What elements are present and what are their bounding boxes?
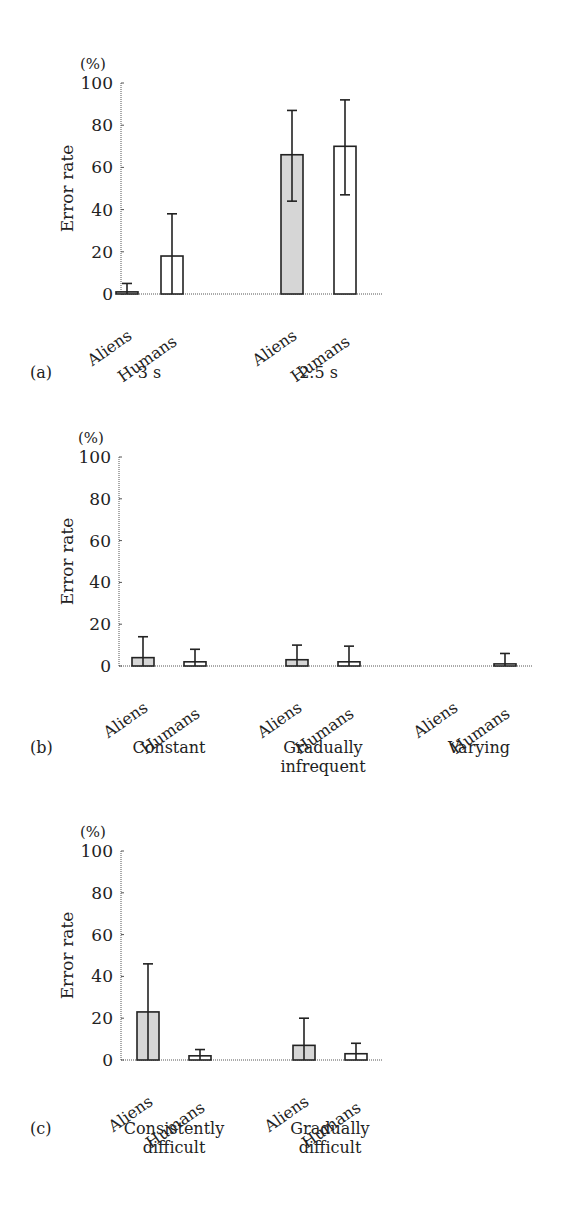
y-tick-label: 100: [81, 73, 113, 93]
panel-label: (b): [30, 738, 53, 757]
group-label: difficult: [299, 1138, 362, 1157]
y-tick-label: 60: [89, 531, 111, 551]
group-label: Varying: [447, 738, 510, 757]
bar-chart-b: 020406080100(%)Error rateAliensHumansCon…: [0, 400, 562, 800]
y-tick-label: 80: [91, 115, 113, 135]
group-label: difficult: [143, 1138, 206, 1157]
y-tick-label: 20: [91, 1008, 113, 1028]
y-tick-label: 80: [89, 489, 111, 509]
group-label: Gradually: [290, 1119, 369, 1138]
y-tick-label: 20: [89, 614, 111, 634]
x-tick-label-aliens: Aliens: [248, 326, 300, 371]
y-tick-label: 0: [102, 1050, 113, 1070]
x-tick-label-aliens: Aliens: [99, 698, 151, 743]
panel-label: (a): [30, 363, 52, 382]
group-label: 3 s: [138, 363, 161, 382]
y-tick-label: 0: [102, 284, 113, 304]
y-tick-label: 40: [91, 200, 113, 220]
y-tick-label: 100: [81, 841, 113, 861]
y-axis-title: Error rate: [57, 145, 77, 233]
y-unit-label: (%): [80, 823, 106, 841]
y-tick-label: 40: [89, 572, 111, 592]
y-tick-label: 40: [91, 966, 113, 986]
panel-label: (c): [30, 1119, 51, 1138]
y-tick-label: 100: [79, 447, 111, 467]
y-unit-label: (%): [78, 429, 104, 447]
bar-chart-c: 020406080100(%)Error rateAliensHumansCon…: [0, 800, 562, 1220]
group-label: 2.5 s: [299, 363, 338, 382]
y-tick-label: 60: [91, 157, 113, 177]
y-tick-label: 20: [91, 242, 113, 262]
y-axis-title: Error rate: [57, 518, 77, 606]
x-tick-label-aliens: Aliens: [253, 698, 305, 743]
group-label: Gradually: [283, 738, 362, 757]
y-tick-label: 60: [91, 925, 113, 945]
y-axis-title: Error rate: [57, 912, 77, 1000]
bar-chart-a: 020406080100(%)Error rateAliensHumans3 s…: [0, 0, 562, 400]
y-tick-label: 0: [100, 656, 111, 676]
chart-panel-a: 020406080100(%)Error rateAliensHumans3 s…: [0, 0, 562, 400]
y-tick-label: 80: [91, 883, 113, 903]
x-tick-label-aliens: Aliens: [409, 698, 461, 743]
group-label: Consistently: [124, 1119, 225, 1138]
group-label: Constant: [132, 738, 206, 757]
y-unit-label: (%): [80, 55, 106, 73]
group-label: infrequent: [280, 757, 366, 776]
